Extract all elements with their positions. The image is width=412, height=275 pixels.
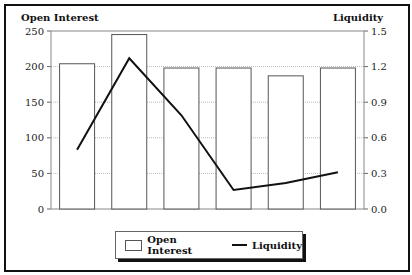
right-tick-label: 0.9	[371, 97, 387, 108]
legend-line-swatch-icon	[232, 244, 247, 246]
left-tick-label: 0	[38, 204, 44, 215]
bar	[320, 68, 355, 209]
left-tick-label: 50	[31, 168, 44, 179]
bar	[268, 76, 303, 209]
left-tick-label: 200	[25, 61, 44, 72]
bar	[112, 35, 147, 209]
right-tick-label: 0.3	[371, 168, 387, 179]
bar	[60, 64, 95, 209]
right-tick-label: 0.0	[371, 204, 387, 215]
bar	[164, 68, 199, 209]
left-tick-label: 100	[25, 132, 44, 143]
legend: Open Interest Liquidity	[115, 231, 303, 259]
right-tick-label: 1.2	[371, 61, 387, 72]
left-tick-label: 250	[25, 26, 44, 37]
right-tick-label: 1.5	[371, 26, 387, 37]
legend-label-open-interest: Open Interest	[147, 234, 213, 256]
left-tick-label: 150	[25, 97, 44, 108]
legend-label-liquidity: Liquidity	[252, 240, 302, 251]
legend-bar-swatch-icon	[125, 240, 142, 251]
right-tick-label: 0.6	[371, 132, 387, 143]
